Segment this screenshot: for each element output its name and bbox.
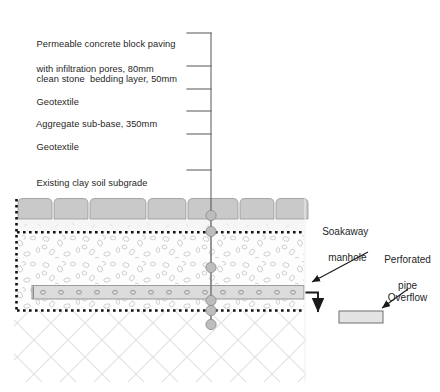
- callout-soakaway-line2: manhole: [322, 251, 366, 264]
- callout-perforated-line1: Perforated: [384, 254, 431, 265]
- callout-soakaway-line1: Soakaway: [322, 226, 368, 237]
- subgrade-wash: [14, 310, 306, 382]
- soakaway-manhole-riser: [206, 198, 216, 330]
- manhole-ring: [206, 210, 216, 329]
- diagram-canvas: Permeable concrete block paving with inf…: [0, 0, 440, 392]
- callout-geotextile-bottom-line1: Geotextile: [37, 142, 79, 152]
- callout-overflow-line1: Overflow: [388, 292, 427, 303]
- callout-label-soakaway-manhole: Soakaway manhole: [311, 212, 371, 277]
- callout-subgrade-line1: Existing clay soil subgrade: [37, 178, 148, 188]
- callout-leader-lines: [187, 33, 211, 205]
- section-right-edge: [305, 199, 306, 383]
- pipe-outlet-elbow: [305, 293, 318, 313]
- callout-label-overflow: Overflow: [366, 278, 438, 317]
- perforated-pipe: [32, 286, 304, 300]
- callout-paving-line1: Permeable concrete block paving: [37, 39, 176, 49]
- callout-label-geotextile-bottom: Geotextile: [26, 128, 79, 166]
- callout-label-subgrade: Existing clay soil subgrade: [26, 164, 147, 202]
